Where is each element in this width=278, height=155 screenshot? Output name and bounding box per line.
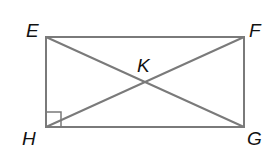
- right-angle-marker: [46, 112, 61, 127]
- vertex-label-g: G: [247, 128, 262, 149]
- vertex-label-h: H: [22, 128, 36, 149]
- diagram-canvas: E F G H K: [0, 0, 278, 155]
- intersection-label-k: K: [137, 55, 151, 76]
- vertex-label-f: F: [249, 20, 262, 41]
- vertex-label-e: E: [26, 20, 39, 41]
- rectangle-diagram: E F G H K: [0, 0, 278, 155]
